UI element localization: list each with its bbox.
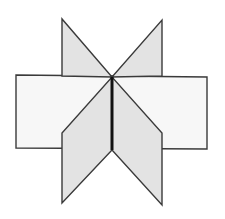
diagram-canvas (0, 0, 225, 219)
folded-shape-diagram (0, 0, 225, 219)
